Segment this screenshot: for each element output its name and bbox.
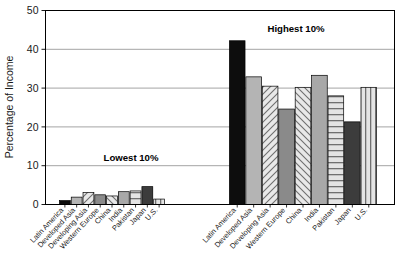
bar <box>154 199 165 204</box>
x-tick-label: Japan <box>332 206 352 227</box>
bar <box>59 201 70 205</box>
y-axis-title: Percentage of Income <box>3 55 15 158</box>
bar <box>142 187 153 205</box>
bar-chart: 01020304050 Latin AmericaDeveloped AsiaD… <box>0 0 405 268</box>
y-tick-label: 0 <box>33 198 39 210</box>
bar <box>312 75 328 204</box>
bar <box>246 77 262 205</box>
y-tick-label: 20 <box>27 121 39 133</box>
bar <box>107 196 118 205</box>
bar <box>83 192 94 204</box>
bar <box>71 197 82 204</box>
y-tick-label: 50 <box>27 4 39 16</box>
y-axis: 01020304050 <box>27 4 46 210</box>
y-tick-label: 40 <box>27 43 39 55</box>
y-tick-label: 10 <box>27 159 39 171</box>
x-axis: Latin AmericaDeveloped AsiaDeveloping As… <box>28 205 369 251</box>
bar <box>118 192 129 205</box>
x-tick-label: China <box>284 205 304 226</box>
chart-canvas: 01020304050 Latin AmericaDeveloped AsiaD… <box>0 0 405 268</box>
bar <box>229 41 245 205</box>
bar <box>295 87 311 204</box>
x-tick-label: U.S. <box>143 206 159 223</box>
bar <box>328 96 344 205</box>
group-annotation-highest: Highest 10% <box>267 23 325 34</box>
bar <box>361 87 377 204</box>
x-tick-label: U.S. <box>353 206 369 223</box>
bar <box>262 86 278 204</box>
bar <box>130 191 141 205</box>
bar <box>95 195 106 205</box>
group-annotation-lowest: Lowest 10% <box>104 152 159 163</box>
bar <box>279 109 295 204</box>
bar <box>345 122 361 205</box>
y-tick-label: 30 <box>27 82 39 94</box>
